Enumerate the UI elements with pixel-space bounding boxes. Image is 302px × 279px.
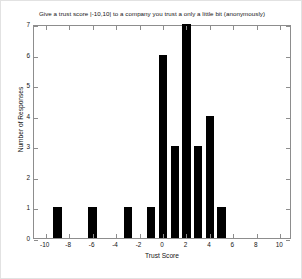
histogram-bar — [217, 207, 225, 238]
x-tick-mark — [46, 234, 47, 238]
x-tick-mark — [210, 26, 211, 30]
y-tick-mark — [34, 87, 38, 88]
histogram-bar — [171, 146, 179, 238]
histogram-bar — [206, 116, 214, 238]
y-tick-mark — [34, 209, 38, 210]
y-axis-label: Number of Responses — [17, 60, 24, 180]
x-tick-mark — [116, 234, 117, 238]
x-tick-label: 6 — [220, 241, 244, 249]
histogram-bar — [147, 207, 155, 238]
x-tick-label: 4 — [197, 241, 221, 249]
y-tick-mark — [34, 118, 38, 119]
y-tick-label: 7 — [19, 21, 30, 29]
x-axis-label: Trust Score — [33, 252, 291, 259]
bars-layer — [34, 26, 290, 238]
x-tick-label: 8 — [244, 241, 268, 249]
histogram-bar — [124, 207, 132, 238]
y-tick-mark — [34, 57, 38, 58]
x-tick-mark — [69, 26, 70, 30]
histogram-bar — [182, 24, 190, 238]
x-tick-mark — [93, 26, 94, 30]
x-tick-mark — [210, 234, 211, 238]
x-tick-mark — [69, 234, 70, 238]
x-tick-mark — [280, 26, 281, 30]
y-tick-mark — [34, 179, 38, 180]
y-tick-label: 0 — [19, 235, 30, 243]
x-tick-mark — [140, 234, 141, 238]
x-tick-mark — [233, 26, 234, 30]
x-tick-mark — [46, 26, 47, 30]
x-tick-mark — [186, 234, 187, 238]
y-tick-mark — [286, 26, 290, 27]
y-tick-mark — [286, 179, 290, 180]
x-tick-mark — [163, 26, 164, 30]
x-tick-label: -4 — [103, 241, 127, 249]
x-tick-label: 0 — [150, 241, 174, 249]
x-tick-mark — [163, 234, 164, 238]
x-tick-mark — [116, 26, 117, 30]
x-tick-label: 10 — [267, 241, 291, 249]
y-tick-mark — [286, 118, 290, 119]
x-tick-label: -8 — [56, 241, 80, 249]
x-tick-mark — [257, 234, 258, 238]
histogram-bar — [194, 146, 202, 238]
x-tick-label: 2 — [173, 241, 197, 249]
y-tick-mark — [34, 148, 38, 149]
y-tick-mark — [34, 26, 38, 27]
x-tick-label: -6 — [80, 241, 104, 249]
y-tick-mark — [286, 57, 290, 58]
x-tick-mark — [257, 26, 258, 30]
histogram-bar — [53, 207, 61, 238]
y-tick-mark — [286, 148, 290, 149]
histogram-bar — [159, 55, 167, 238]
x-tick-label: -10 — [33, 241, 57, 249]
x-tick-mark — [233, 234, 234, 238]
x-tick-mark — [93, 234, 94, 238]
figure-canvas: Give a trust score |-10,10| to a company… — [0, 0, 302, 279]
y-tick-mark — [286, 209, 290, 210]
y-tick-mark — [286, 87, 290, 88]
x-tick-mark — [140, 26, 141, 30]
plot-area — [33, 25, 291, 239]
chart-title: Give a trust score |-10,10| to a company… — [1, 10, 302, 18]
x-tick-mark — [280, 234, 281, 238]
y-tick-label: 1 — [19, 204, 30, 212]
y-tick-label: 6 — [19, 52, 30, 60]
x-tick-mark — [186, 26, 187, 30]
x-tick-label: -2 — [127, 241, 151, 249]
